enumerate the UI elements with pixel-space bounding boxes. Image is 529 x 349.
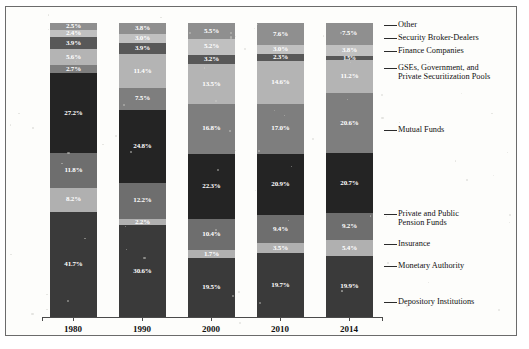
scan-speck — [274, 110, 275, 111]
category-leader-labels: OtherSecurity Broker-DealersFinance Comp… — [384, 7, 518, 337]
x-axis-end-tick — [42, 317, 43, 321]
segment-value-label: 7.5% — [342, 30, 357, 37]
scan-speck — [67, 300, 69, 302]
segment-value-label: 13.5% — [202, 81, 220, 88]
scan-speck — [341, 290, 342, 291]
bar-segment[interactable]: 11.8% — [50, 153, 97, 188]
scan-speck — [428, 282, 429, 283]
x-axis-year-label-1980: 1980 — [43, 324, 103, 334]
segment-value-label: 3.8% — [342, 47, 357, 54]
bar-segment[interactable]: 3.2% — [188, 55, 235, 64]
x-axis-end-tick — [382, 317, 383, 321]
bar-segment[interactable]: 2.5% — [50, 23, 97, 30]
bar-segment[interactable]: 14.6% — [257, 61, 304, 104]
segment-value-label: 2.5% — [66, 23, 81, 30]
x-axis-line — [42, 317, 382, 318]
category-label-8: Depository Institutions — [398, 298, 474, 307]
bar-segment[interactable]: 11.2% — [326, 60, 373, 93]
bar-column-2000[interactable]: 5.5%5.2%3.2%13.5%16.8%22.3%10.4%1.7%19.5… — [188, 23, 235, 317]
bar-column-2014[interactable]: 7.5%3.8%1.5%11.2%20.6%20.7%9.2%5.4%19.9% — [326, 23, 373, 317]
bar-segment[interactable]: 19.9% — [326, 256, 373, 317]
segment-value-label: 16.8% — [202, 125, 220, 132]
segment-value-label: 9.4% — [273, 226, 288, 233]
segment-value-label: 14.6% — [271, 79, 289, 86]
bar-segment[interactable]: 3.5% — [257, 243, 304, 253]
bar-segment[interactable]: 3.0% — [257, 45, 304, 54]
bar-segment[interactable]: 7.5% — [119, 88, 166, 110]
segment-value-label: 41.7% — [64, 261, 82, 268]
segment-value-label: 3.9% — [135, 45, 150, 52]
bar-segment[interactable]: 20.6% — [326, 93, 373, 153]
segment-value-label: 19.9% — [340, 283, 358, 290]
bar-segment[interactable]: 2.4% — [50, 30, 97, 37]
bar-segment[interactable]: 20.9% — [257, 154, 304, 215]
segment-value-label: 20.9% — [271, 181, 289, 188]
bar-column-2010[interactable]: 7.6%3.0%2.3%14.6%17.0%20.9%9.4%3.5%19.7% — [257, 23, 304, 317]
bar-segment[interactable]: 3.9% — [50, 37, 97, 48]
scan-speck — [255, 190, 256, 191]
scan-speck — [340, 32, 342, 34]
bar-segment[interactable]: 2.3% — [257, 54, 304, 61]
bar-segment[interactable]: 3.0% — [119, 34, 166, 43]
bar-segment[interactable]: 5.4% — [326, 240, 373, 256]
bar-segment[interactable]: 20.7% — [326, 153, 373, 213]
bar-segment[interactable]: 17.0% — [257, 104, 304, 154]
bar-segment[interactable]: 2.7% — [50, 65, 97, 73]
segment-value-label: 3.9% — [66, 40, 81, 47]
bar-segment[interactable]: 3.9% — [119, 43, 166, 54]
segment-value-label: 1.7% — [204, 251, 219, 258]
bar-column-1990[interactable]: 3.8%3.0%3.9%11.4%7.5%24.8%12.2%2.2%30.6% — [119, 23, 166, 317]
bar-column-1980[interactable]: 2.5%2.4%3.9%5.6%2.7%27.2%11.8%8.2%41.7% — [50, 23, 97, 317]
segment-value-label: 8.2% — [66, 196, 81, 203]
bar-segment[interactable]: 27.2% — [50, 73, 97, 153]
bar-segment[interactable]: 9.2% — [326, 213, 373, 240]
leader-line — [384, 130, 397, 131]
scan-speck — [399, 122, 400, 123]
category-label-0: Other — [398, 21, 417, 30]
bar-segment[interactable]: 7.5% — [326, 23, 373, 45]
bar-segment[interactable]: 10.4% — [188, 219, 235, 250]
segment-value-label: 22.3% — [202, 183, 220, 190]
bar-segment[interactable]: 24.8% — [119, 110, 166, 183]
x-axis-tick — [280, 317, 281, 321]
bar-segment[interactable]: 1.7% — [188, 250, 235, 258]
segment-value-label: 12.2% — [133, 197, 151, 204]
bar-segment[interactable]: 9.4% — [257, 215, 304, 243]
bar-segment[interactable]: 19.7% — [257, 253, 304, 317]
segment-value-label: 10.4% — [202, 231, 220, 238]
bar-segment[interactable]: 41.7% — [50, 212, 97, 317]
leader-line — [384, 244, 397, 245]
bar-segment[interactable]: 30.6% — [119, 225, 166, 317]
bar-segment[interactable]: 16.8% — [188, 104, 235, 154]
segment-value-label: 7.6% — [273, 31, 288, 38]
bar-segment[interactable]: 22.3% — [188, 154, 235, 220]
bar-segment[interactable]: 3.8% — [119, 23, 166, 34]
segment-value-label: 17.0% — [271, 125, 289, 132]
bar-segment[interactable]: 8.2% — [50, 188, 97, 212]
scan-speck — [238, 291, 240, 293]
bar-segment[interactable]: 5.6% — [50, 49, 97, 65]
bar-segment[interactable]: 5.2% — [188, 39, 235, 54]
x-axis-year-label-2000: 2000 — [181, 324, 241, 334]
x-axis-year-label-2010: 2010 — [250, 324, 310, 334]
segment-value-label: 2.7% — [66, 66, 81, 73]
scan-speck — [229, 130, 231, 132]
bar-segment[interactable]: 13.5% — [188, 64, 235, 104]
scan-speck — [350, 62, 351, 63]
segment-value-label: 5.2% — [204, 43, 219, 50]
segment-value-label: 5.5% — [204, 28, 219, 35]
category-label-6: Insurance — [398, 240, 430, 249]
bar-segment[interactable]: 19.5% — [188, 258, 235, 317]
segment-value-label: 5.6% — [66, 54, 81, 61]
scan-speck — [18, 113, 19, 114]
segment-value-label: 27.2% — [64, 110, 82, 117]
segment-value-label: 3.2% — [204, 56, 219, 63]
bar-segment[interactable]: 12.2% — [119, 183, 166, 219]
bar-segment[interactable]: 5.5% — [188, 23, 235, 39]
bar-segment[interactable]: 7.6% — [257, 23, 304, 45]
bar-segment[interactable]: 3.8% — [326, 45, 373, 56]
scan-speck — [143, 257, 145, 259]
bar-segment[interactable]: 11.4% — [119, 54, 166, 88]
x-axis-year-label-1990: 1990 — [112, 324, 172, 334]
scan-speck — [32, 127, 34, 129]
